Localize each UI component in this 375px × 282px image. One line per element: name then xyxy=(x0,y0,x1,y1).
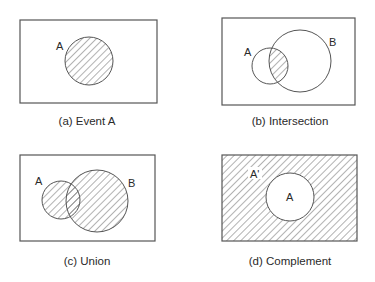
set-a-circle xyxy=(65,37,113,85)
complement-label: A' xyxy=(250,168,259,180)
sample-space-box xyxy=(222,18,355,105)
set-b-label: B xyxy=(329,36,336,48)
set-a-label: A xyxy=(56,40,64,52)
caption-union: (c) Union xyxy=(64,256,111,268)
venn-svg: A A B A B A' A xyxy=(0,0,375,282)
caption-complement: (d) Complement xyxy=(249,256,331,268)
panel-event-a: A xyxy=(20,20,157,103)
set-a-label: A xyxy=(286,191,294,203)
set-b-label: B xyxy=(128,177,135,189)
venn-figure: A A B A B A' A xyxy=(0,0,375,282)
caption-intersection: (b) Intersection xyxy=(252,116,329,128)
set-a-label: A xyxy=(244,46,252,58)
caption-event-a: (a) Event A xyxy=(59,116,116,128)
panel-complement: A' A xyxy=(222,155,357,241)
set-a-label: A xyxy=(35,175,43,187)
panel-union: A B xyxy=(20,155,155,241)
panel-intersection: A B xyxy=(222,18,355,105)
